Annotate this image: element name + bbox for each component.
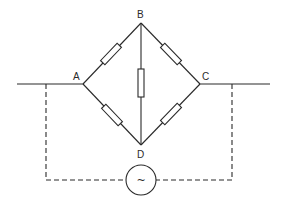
resistor-d-c-icon [161,103,182,124]
node-label-c: C [202,71,209,82]
dashed-connection-right [156,84,232,180]
ac-source-symbol: ~ [136,174,145,187]
node-label-b: B [137,9,144,20]
node-label-d: D [137,149,144,160]
resistor-a-d-icon [102,104,123,126]
resistor-a-b-icon [101,43,122,65]
resistor-b-c-icon [161,43,182,64]
node-label-a: A [73,71,80,82]
resistor-b-d-icon [138,69,144,97]
wheatstone-bridge-diagram: A B C D ~ [0,0,285,203]
dashed-connection-left [46,84,126,180]
